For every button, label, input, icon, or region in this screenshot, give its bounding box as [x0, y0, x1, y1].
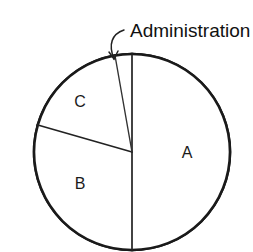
- slice-label-a: A: [182, 144, 193, 161]
- slice-label-c: C: [74, 93, 86, 110]
- slice-label-b: B: [75, 175, 86, 192]
- callout-label-administration: Administration: [130, 20, 250, 41]
- pie-chart: A B C Administration: [0, 0, 253, 252]
